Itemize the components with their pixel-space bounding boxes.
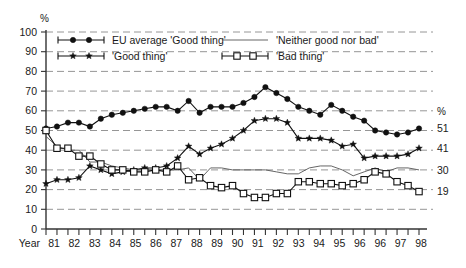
data-point-marker	[142, 106, 147, 111]
legend-label: 'Bad thing'	[276, 50, 324, 62]
data-point-marker	[263, 84, 268, 89]
data-point-marker	[65, 120, 70, 125]
data-point-marker	[284, 119, 291, 125]
series-1	[43, 115, 423, 186]
data-point-marker	[219, 104, 224, 109]
data-point-marker	[87, 153, 93, 159]
legend-label: 'Neither good nor bad'	[276, 34, 379, 46]
data-point-marker	[328, 180, 334, 186]
y-axis-unit-label: %	[40, 13, 49, 24]
data-point-marker	[306, 135, 313, 141]
data-point-marker	[361, 118, 366, 123]
series-end-label: 30	[437, 164, 449, 176]
x-tick-label: 87	[170, 237, 182, 249]
y-tick-label: 50	[25, 124, 37, 136]
x-tick-label: 96	[374, 237, 386, 249]
data-point-marker	[285, 96, 290, 101]
data-point-marker	[163, 162, 170, 168]
data-point-marker	[109, 112, 114, 117]
legend-item: EU average 'Good thing'	[58, 34, 226, 46]
legend-item: 'Neither good nor bad'	[222, 34, 379, 46]
data-point-marker	[274, 90, 279, 95]
y-axis: 0102030405060708090100	[19, 26, 46, 235]
legend-label: 'Good thing'	[112, 50, 167, 62]
data-point-marker	[383, 153, 390, 159]
series-end-label: 41	[437, 142, 449, 154]
data-point-marker	[196, 151, 203, 157]
data-point-marker	[340, 108, 345, 113]
x-tick-label: 92	[272, 237, 284, 249]
data-point-marker	[328, 137, 335, 143]
data-point-marker	[120, 167, 126, 173]
data-point-marker	[372, 128, 377, 133]
data-point-marker	[329, 102, 334, 107]
data-point-marker	[70, 53, 77, 59]
x-tick-label: 91	[252, 237, 264, 249]
data-point-marker	[98, 161, 104, 167]
data-point-marker	[76, 120, 81, 125]
y-tick-label: 60	[25, 104, 37, 116]
x-tick-label: 98	[415, 237, 427, 249]
series-end-label: 51	[437, 122, 449, 134]
data-point-marker	[197, 110, 202, 115]
series-end-label: 19	[437, 185, 449, 197]
data-point-marker	[120, 110, 125, 115]
x-tick-label: 82	[69, 237, 81, 249]
data-point-marker	[131, 108, 136, 113]
data-point-marker	[339, 143, 346, 149]
x-tick-label: 86	[150, 237, 162, 249]
data-point-marker	[54, 176, 61, 182]
data-point-marker	[164, 104, 169, 109]
data-point-marker	[218, 184, 224, 190]
data-point-marker	[98, 116, 103, 121]
data-point-marker	[394, 132, 399, 137]
data-point-marker	[131, 169, 137, 175]
y-tick-label: 20	[25, 183, 37, 195]
data-point-marker	[65, 145, 71, 151]
x-tick-label: 97	[395, 237, 407, 249]
data-point-marker	[43, 127, 49, 133]
data-point-marker	[196, 175, 202, 181]
y-tick-label: 80	[25, 65, 37, 77]
data-point-marker	[262, 115, 269, 121]
series-0	[43, 84, 421, 137]
data-point-marker	[295, 179, 301, 185]
y-tick-label: 100	[19, 26, 37, 38]
data-point-marker	[153, 167, 159, 173]
data-point-marker	[416, 126, 421, 131]
chart-canvas: 0102030405060708090100%81828384858687888…	[0, 0, 466, 268]
data-point-marker	[306, 179, 312, 185]
data-point-marker	[273, 115, 280, 121]
data-point-marker	[186, 98, 191, 103]
series-line	[46, 119, 419, 184]
data-point-marker	[350, 180, 356, 186]
data-point-marker	[405, 182, 411, 188]
data-point-marker	[230, 104, 235, 109]
data-point-marker	[86, 37, 91, 42]
data-point-marker	[405, 151, 412, 157]
legend: EU average 'Good thing''Good thing''Neit…	[58, 34, 379, 62]
x-tick-label: 93	[293, 237, 305, 249]
data-point-marker	[218, 141, 225, 147]
data-point-marker	[54, 124, 59, 129]
x-tick-label: 85	[130, 237, 142, 249]
x-axis-labels: 81828384858687888990919293949596969798	[48, 237, 427, 249]
data-point-marker	[250, 53, 256, 59]
right-axis-unit-label: %	[437, 106, 446, 117]
data-point-marker	[307, 108, 312, 113]
data-point-marker	[394, 179, 400, 185]
data-point-marker	[70, 37, 75, 42]
x-tick-label: 96	[354, 237, 366, 249]
data-point-marker	[339, 182, 345, 188]
y-tick-label: 40	[25, 144, 37, 156]
data-point-marker	[142, 169, 148, 175]
data-point-marker	[153, 104, 158, 109]
y-tick-label: 10	[25, 203, 37, 215]
data-point-marker	[174, 163, 180, 169]
data-point-marker	[383, 171, 389, 177]
y-tick-label: 0	[31, 223, 37, 235]
x-tick-label: 90	[232, 237, 244, 249]
x-tick-label: 83	[89, 237, 101, 249]
x-tick-label: 95	[334, 237, 346, 249]
data-point-marker	[317, 135, 324, 141]
